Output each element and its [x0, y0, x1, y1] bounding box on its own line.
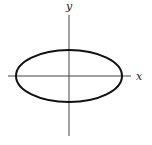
- x-axis-label: x: [136, 70, 143, 83]
- y-axis-label: y: [65, 0, 73, 13]
- ellipse-diagram: x y: [0, 0, 152, 145]
